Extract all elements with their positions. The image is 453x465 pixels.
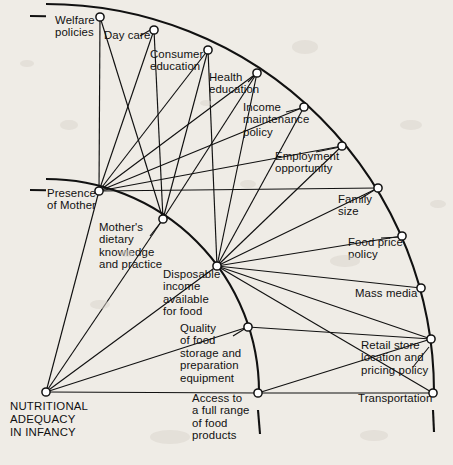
paper-speckle (90, 300, 110, 309)
node-consumer[interactable] (204, 46, 212, 54)
label-quality_food: Quality of food storage and preparation … (180, 322, 241, 384)
label-family_size: Family size (338, 193, 372, 218)
node-presence[interactable] (95, 187, 103, 195)
label-transportation: Transportation (358, 392, 432, 404)
edge-quality_food-to-retail_store (248, 327, 431, 339)
label-daycare: Day care (104, 29, 150, 41)
paper-speckle (20, 60, 34, 67)
edge-mothers_diet-to-consumer (163, 50, 208, 219)
edge-hub-to-presence (46, 191, 99, 392)
node-welfare[interactable] (96, 13, 104, 21)
hub-label: NUTRITIONAL ADEQUACY IN INFANCY (10, 400, 88, 440)
node-employment[interactable] (338, 142, 346, 150)
label-health: Health education (209, 71, 259, 96)
edge-presence-to-daycare (99, 30, 154, 191)
label-mass_media: Mass media (355, 287, 417, 299)
paper-speckle (240, 180, 256, 188)
node-quality_food[interactable] (244, 323, 252, 331)
label-mothers_diet: Mother's dietary knowledge and practice (99, 221, 162, 271)
label-employment: Employment opportunity (275, 150, 339, 175)
label-presence: Presence of Mother (47, 187, 96, 212)
edge-presence-to-welfare (99, 17, 100, 191)
paper-speckle (200, 100, 212, 106)
arc-inner-ring-stub-bottom (258, 410, 260, 434)
label-disposable: Disposable income available for food (163, 268, 220, 318)
paper-speckle (430, 200, 446, 208)
node-hub[interactable] (42, 388, 50, 396)
node-access_food[interactable] (254, 389, 262, 397)
paper-speckle (400, 120, 422, 130)
label-access_food: Access to a full range of food products (192, 392, 250, 442)
paper-speckle (292, 40, 318, 54)
diagram-canvas: Welfare policiesDay careConsumer educati… (0, 0, 453, 465)
label-retail_store: Retail store location and pricing policy (361, 339, 428, 376)
paper-speckle (60, 120, 78, 130)
arc-outer-ring-stub-bottom (433, 410, 434, 432)
paper-speckle (150, 430, 190, 444)
paper-speckle (120, 250, 134, 257)
paper-speckle (360, 430, 388, 441)
edge-presence-to-family_size (99, 188, 378, 191)
label-income_maint: Income maintenance policy (243, 101, 309, 138)
label-consumer: Consumer education (150, 48, 203, 73)
label-welfare: Welfare policies (55, 14, 95, 39)
node-mass_media[interactable] (417, 284, 425, 292)
node-daycare[interactable] (150, 26, 158, 34)
node-family_size[interactable] (374, 184, 382, 192)
paper-speckle (330, 255, 360, 267)
